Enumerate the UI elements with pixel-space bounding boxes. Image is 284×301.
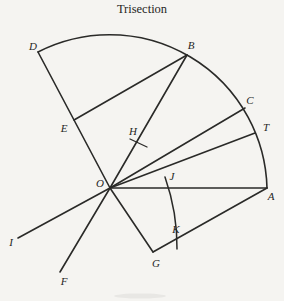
diagram-strokes — [18, 35, 267, 272]
page-smudge — [114, 293, 166, 298]
point-label-B: B — [188, 39, 195, 51]
point-label-D: D — [28, 40, 37, 52]
ray-O-T — [110, 133, 255, 188]
main-arc-A-D — [38, 35, 267, 188]
trisection-diagram: Trisection DBCTEHOJAIKFG — [0, 0, 284, 301]
figure-page: Trisection DBCTEHOJAIKFG — [0, 0, 284, 301]
point-label-G: G — [152, 257, 160, 269]
chord-E-B — [74, 55, 187, 120]
ray-O-G — [110, 188, 153, 252]
ray-O-I — [18, 188, 110, 238]
point-label-H: H — [128, 125, 138, 137]
point-label-J: J — [170, 170, 176, 182]
ray-O-F — [60, 188, 110, 272]
point-label-T: T — [263, 121, 270, 133]
figure-title: Trisection — [117, 2, 168, 16]
ray-O-C — [110, 108, 245, 188]
point-label-I: I — [8, 236, 14, 248]
point-label-C: C — [246, 94, 254, 106]
point-label-O: O — [96, 177, 104, 189]
point-label-A: A — [267, 190, 275, 202]
point-label-E: E — [60, 122, 68, 134]
line-G-A — [153, 188, 267, 252]
diagram-labels: DBCTEHOJAIKFG — [8, 39, 274, 287]
point-label-F: F — [60, 275, 68, 287]
point-label-K: K — [171, 223, 180, 235]
ray-O-B — [110, 55, 187, 188]
